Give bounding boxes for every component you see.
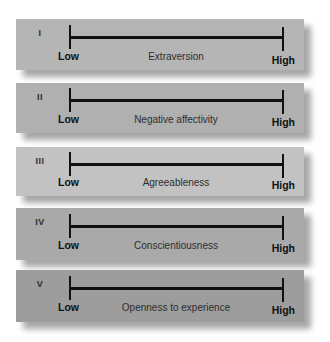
scale-high-tick — [282, 90, 284, 114]
scale-panel-openness: V Low Openness to experience High — [16, 270, 304, 322]
panel-numeral: III — [34, 156, 46, 166]
scale-line — [70, 163, 283, 166]
panel-numeral: V — [34, 279, 46, 289]
scale-line — [70, 36, 283, 39]
scale-high-tick — [282, 278, 284, 302]
scale-high-tick — [282, 216, 284, 240]
high-label: High — [272, 54, 295, 66]
panel-numeral: II — [34, 92, 46, 102]
trait-label: Conscientiousness — [76, 240, 276, 251]
scale-high-tick — [282, 154, 284, 178]
high-label: High — [272, 179, 295, 191]
trait-label: Openness to experience — [76, 302, 276, 313]
scale-line — [70, 287, 283, 290]
scale-line — [70, 225, 283, 228]
trait-label: Extraversion — [76, 51, 276, 62]
high-label: High — [272, 242, 295, 254]
high-label: High — [272, 304, 295, 316]
trait-label: Negative affectivity — [76, 114, 276, 125]
scale-high-tick — [282, 27, 284, 51]
scale-panel-agreeableness: III Low Agreeableness High — [16, 147, 304, 196]
scale-panel-conscientiousness: IV Low Conscientiousness High — [16, 208, 304, 260]
scale-panel-negative-affectivity: II Low Negative affectivity High — [16, 83, 304, 133]
scale-line — [70, 99, 283, 102]
panel-numeral: I — [34, 28, 46, 38]
high-label: High — [272, 116, 295, 128]
scale-panel-extraversion: I Low Extraversion High — [16, 19, 304, 70]
panel-numeral: IV — [34, 217, 46, 227]
trait-label: Agreeableness — [76, 177, 276, 188]
